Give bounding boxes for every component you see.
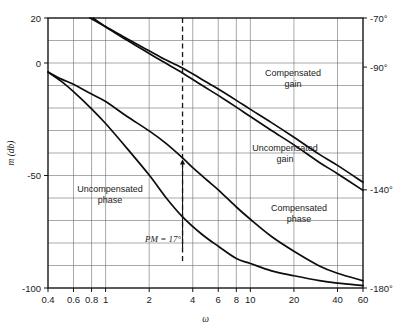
annotation-line-1: Uncompensated <box>252 143 318 153</box>
y-axis-title: m (db) <box>6 140 17 165</box>
y-tick-label: 20 <box>30 13 41 24</box>
x-tick-label: 0.6 <box>67 294 80 305</box>
x-tick-label: 8 <box>234 294 239 305</box>
annotation-line-1: Compensated <box>271 203 327 213</box>
annotation-line-1: Uncompensated <box>77 184 143 194</box>
annotation-line-1: PM = 17° <box>144 234 182 244</box>
y-tick-label: -100 <box>22 283 41 294</box>
y2-tick-label: -140° <box>370 184 393 195</box>
annotation-line-1: Compensated <box>265 68 321 78</box>
x-tick-label: 40 <box>332 294 343 305</box>
x-tick-label: 6 <box>216 294 221 305</box>
y2-tick-label: -90° <box>370 62 388 73</box>
y-tick-label: -50 <box>27 170 41 181</box>
annotation-line-2: phase <box>287 214 312 224</box>
y-tick-label: 0 <box>36 58 41 69</box>
y2-tick-label: -70° <box>370 13 388 24</box>
x-tick-label: 20 <box>289 294 300 305</box>
x-tick-label: 10 <box>245 294 256 305</box>
x-tick-label: 4 <box>190 294 195 305</box>
x-tick-label: 60 <box>358 294 369 305</box>
bode-plot-figure: 0.40.60.81246810204060 200-50-100 -70°-9… <box>0 0 404 330</box>
x-tick-label: 0.8 <box>85 294 98 305</box>
annotation-line-2: phase <box>98 195 123 205</box>
x-tick-label: 1 <box>103 294 108 305</box>
figure-background <box>0 0 404 330</box>
bode-plot-svg: 0.40.60.81246810204060 200-50-100 -70°-9… <box>0 0 404 330</box>
annotation-line-2: gain <box>276 154 293 164</box>
x-axis-title: ω <box>202 314 209 324</box>
x-tick-label: 2 <box>147 294 152 305</box>
x-tick-label: 0.4 <box>41 294 54 305</box>
annotation-phase-margin: PM = 17° <box>144 234 182 244</box>
y2-tick-label: -180° <box>370 283 393 294</box>
annotation-line-2: gain <box>284 79 301 89</box>
